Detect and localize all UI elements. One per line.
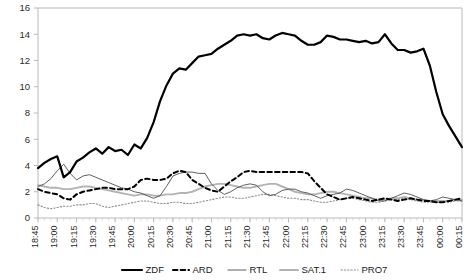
y-tick-label: 8 xyxy=(25,107,30,118)
y-tick-label: 10 xyxy=(19,81,30,92)
y-tick-label: 0 xyxy=(25,212,30,223)
chart-root: 0246810121416 18:4519:0019:1519:3019:452… xyxy=(0,0,475,280)
x-tick-label: 21:15 xyxy=(223,226,233,249)
x-tick-label: 21:30 xyxy=(242,226,252,249)
y-tick-label: 6 xyxy=(25,134,30,145)
legend-label-zdf: ZDF xyxy=(146,264,165,275)
x-tick-label: 00:15 xyxy=(454,226,464,249)
x-tick-label: 22:45 xyxy=(338,226,348,249)
x-tick-label: 20:30 xyxy=(165,226,175,249)
x-tick-label: 23:00 xyxy=(358,226,368,249)
x-tick-label: 19:30 xyxy=(88,226,98,249)
x-tick-label: 21:45 xyxy=(261,226,271,249)
x-tick-label: 22:00 xyxy=(281,226,291,249)
line-chart: 0246810121416 18:4519:0019:1519:3019:452… xyxy=(0,0,475,280)
x-tick-label: 19:00 xyxy=(49,226,59,249)
y-tick-label: 16 xyxy=(19,2,30,13)
x-tick-label: 22:15 xyxy=(300,226,310,249)
x-tick-label: 19:15 xyxy=(69,226,79,249)
x-tick-label: 23:30 xyxy=(396,226,406,249)
x-tick-label: 21:00 xyxy=(203,226,213,249)
legend-label-rtl: RTL xyxy=(250,264,268,275)
legend-label-sat1: SAT.1 xyxy=(302,264,327,275)
legend-label-ard: ARD xyxy=(193,264,213,275)
legend-label-pro7: PRO7 xyxy=(362,264,388,275)
x-tick-label: 20:00 xyxy=(126,226,136,249)
y-tick-label: 2 xyxy=(25,186,30,197)
x-tick-label: 19:45 xyxy=(107,226,117,249)
x-tick-label: 22:30 xyxy=(319,226,329,249)
x-tick-label: 23:45 xyxy=(415,226,425,249)
x-tick-label: 20:45 xyxy=(184,226,194,249)
y-tick-label: 4 xyxy=(25,160,30,171)
y-tick-label: 14 xyxy=(19,29,30,40)
x-tick-label: 00:00 xyxy=(435,226,445,249)
y-tick-label: 12 xyxy=(19,55,30,66)
x-tick-label: 18:45 xyxy=(30,226,40,249)
x-tick-label: 23:15 xyxy=(377,226,387,249)
x-tick-label: 20:15 xyxy=(146,226,156,249)
